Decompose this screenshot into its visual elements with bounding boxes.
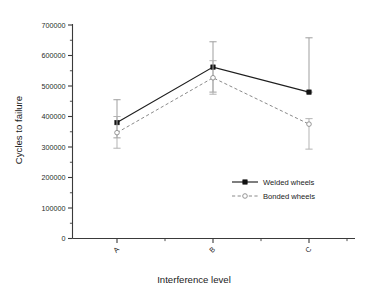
y-tick-label: 200000 — [42, 173, 66, 182]
legend-label: Bonded wheels — [263, 192, 315, 201]
data-point-marker — [211, 75, 216, 80]
y-tick-label: 300000 — [42, 143, 66, 152]
y-tick-label: 500000 — [42, 82, 66, 91]
y-tick-label: 0 — [62, 234, 66, 243]
x-axis-ticks — [117, 239, 347, 244]
legend-item-welded-wheels: Welded wheels — [232, 178, 315, 187]
legend-marker — [243, 180, 247, 184]
x-axis-title: Interference level — [157, 274, 231, 285]
data-point-marker — [307, 122, 312, 127]
data-point-marker — [307, 90, 311, 94]
data-point-marker — [115, 130, 120, 135]
x-tick-label: C — [303, 245, 313, 255]
y-axis-title: Cycles to failure — [13, 96, 24, 164]
legend-item-bonded-wheels: Bonded wheels — [232, 192, 315, 201]
y-axis-tick-labels: 0100000200000300000400000500000600000700… — [42, 21, 66, 244]
y-axis-ticks — [68, 25, 73, 239]
data-series-layer — [113, 38, 312, 149]
y-tick-label: 400000 — [42, 112, 66, 121]
y-tick-label: 700000 — [42, 21, 66, 30]
legend-marker — [243, 194, 248, 199]
series-bonded-wheels — [113, 61, 312, 149]
y-tick-label: 100000 — [42, 204, 66, 213]
x-axis: ABC Interference level — [73, 239, 356, 286]
x-tick-label: B — [207, 245, 217, 255]
x-axis-tick-labels: ABC — [111, 245, 313, 255]
y-axis: 0100000200000300000400000500000600000700… — [13, 21, 73, 244]
line-chart-with-error-bars: 0100000200000300000400000500000600000700… — [0, 0, 382, 294]
y-tick-label: 600000 — [42, 51, 66, 60]
chart-legend: Welded wheelsBonded wheels — [232, 178, 315, 201]
x-tick-label: A — [111, 245, 121, 255]
chart-container: 0100000200000300000400000500000600000700… — [0, 0, 382, 294]
legend-label: Welded wheels — [263, 178, 315, 187]
